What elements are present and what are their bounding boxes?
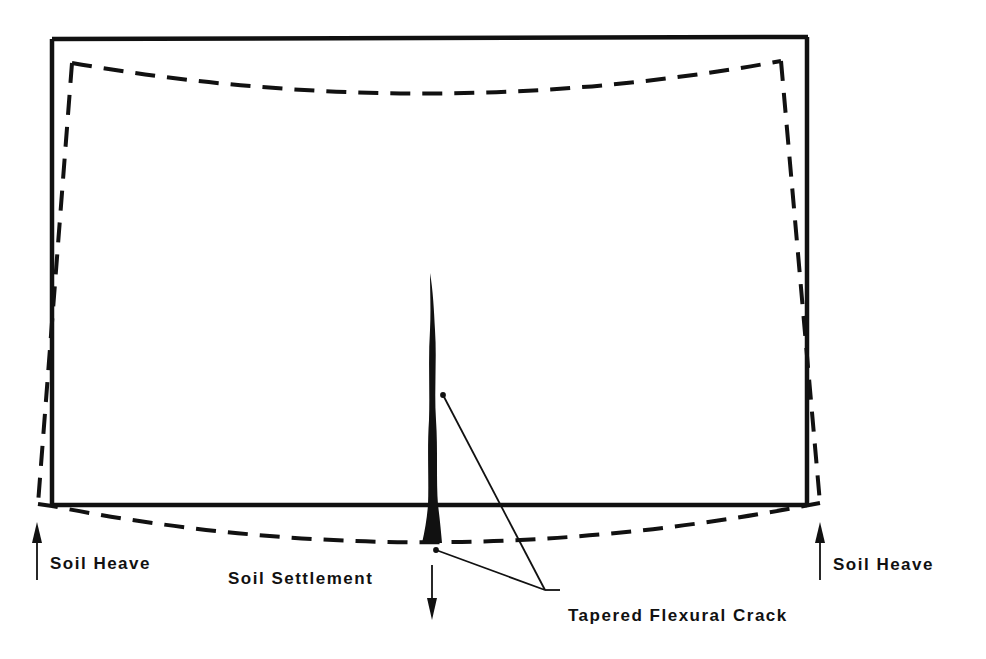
soil-heave-left-label: Soil Heave xyxy=(50,555,151,572)
soil-heave-left-arrow-icon xyxy=(32,522,42,580)
soil-settlement-label: Soil Settlement xyxy=(228,570,373,587)
soil-settlement-arrow-icon xyxy=(427,565,437,620)
deformed-top-edge xyxy=(72,61,781,94)
soil-heave-right-arrow-icon xyxy=(815,522,825,580)
deformed-left-edge xyxy=(38,63,72,504)
flexural-crack xyxy=(422,273,442,543)
deformed-right-edge xyxy=(781,61,820,503)
tapered-flexural-crack-label: Tapered Flexural Crack xyxy=(568,607,788,624)
crack-leader-lines xyxy=(434,393,560,590)
soil-heave-right-label: Soil Heave xyxy=(833,556,934,573)
